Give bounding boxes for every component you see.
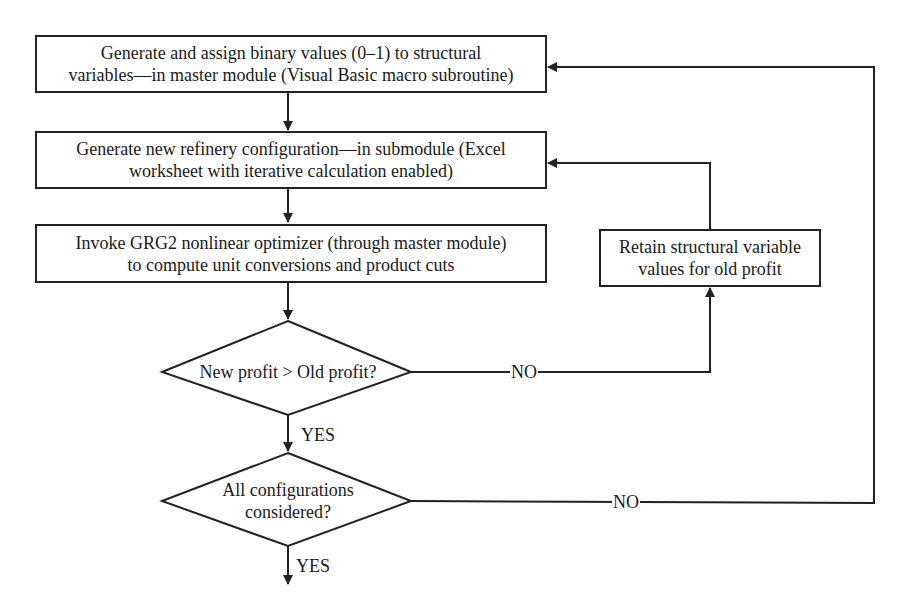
process-box-new-configuration: Generate new refinery configuration—in s…: [35, 131, 547, 189]
process-text-line1: Generate new refinery configuration—in s…: [76, 138, 505, 160]
process-text-line2: variables—in master module (Visual Basic…: [69, 64, 514, 86]
edge-label-profit-yes: YES: [300, 425, 336, 445]
flowchart-canvas: Generate and assign binary values (0–1) …: [0, 0, 901, 616]
process-text-line2: to compute unit conversions and product …: [76, 254, 507, 276]
process-box-generate-binary: Generate and assign binary values (0–1) …: [35, 35, 547, 93]
process-box-invoke-grg2: Invoke GRG2 nonlinear optimizer (through…: [35, 224, 547, 283]
edge-label-profit-no: NO: [510, 362, 538, 382]
arrow-retain-to-box2: [548, 163, 710, 229]
edge-label-all-yes: YES: [295, 556, 331, 576]
decision-text-all-configs: All configurations considered?: [170, 479, 406, 523]
edge-label-all-no: NO: [612, 492, 640, 512]
arrow-no-to-retain: [411, 288, 710, 372]
process-text-line2: values for old profit: [619, 258, 801, 280]
decision-text-line2: considered?: [170, 501, 406, 523]
process-text-line1: Invoke GRG2 nonlinear optimizer (through…: [76, 232, 507, 254]
process-text-line1: Retain structural variable: [619, 236, 801, 258]
decision-text-line1: All configurations: [170, 479, 406, 501]
process-box-retain-values: Retain structural variable values for ol…: [599, 229, 821, 287]
process-text-line2: worksheet with iterative calculation ena…: [76, 160, 505, 182]
decision-text-line1: New profit > Old profit?: [199, 362, 376, 382]
decision-text-profit: New profit > Old profit?: [170, 361, 406, 383]
process-text-line1: Generate and assign binary values (0–1) …: [69, 42, 514, 64]
